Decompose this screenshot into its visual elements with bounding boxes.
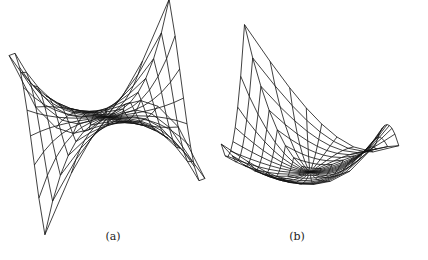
mesh-ring [232, 58, 387, 184]
mesh-spoke [107, 117, 205, 179]
wireframe-surface-a [9, 0, 205, 235]
mesh-spoke [45, 117, 107, 235]
mesh-spoke [9, 56, 107, 118]
mesh-spoke [107, 36, 175, 117]
wireframe-surface-b [221, 25, 399, 185]
mesh-ring [221, 25, 399, 185]
mesh-spoke [245, 25, 311, 172]
caption-b: (b) [289, 230, 305, 243]
mesh-spoke [39, 117, 107, 198]
figure-canvas [0, 0, 428, 260]
mesh-spoke [107, 0, 169, 117]
caption-a: (a) [105, 230, 120, 243]
